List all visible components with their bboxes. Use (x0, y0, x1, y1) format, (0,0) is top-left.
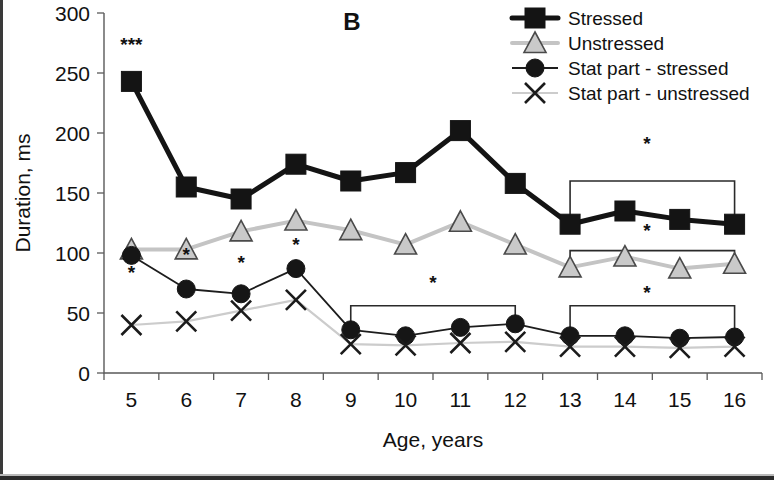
x-axis-title: Age, years (383, 428, 483, 451)
legend-label-x: Stat part - unstressed (568, 83, 750, 104)
marker-stressed-age-8 (286, 154, 306, 174)
marker-stat-part-unstressed-age-8 (286, 290, 306, 310)
sig-bracket-mid-statpart: * (429, 272, 437, 293)
marker-unstressed-age-12 (504, 234, 526, 254)
x-tick-label-5: 5 (126, 388, 138, 411)
marker-stressed-age-15 (670, 209, 690, 229)
marker-stat-part-stressed-age-12 (506, 315, 524, 333)
marker-stressed-age-11 (450, 121, 470, 141)
marker-stressed-age-7 (231, 189, 251, 209)
chart-legend: StressedUnstressedStat part - stressedSt… (512, 8, 750, 104)
y-tick-label-150: 150 (55, 182, 90, 205)
x-tick-label-12: 12 (504, 388, 527, 411)
y-axis-title: Duration, ms (11, 133, 34, 252)
legend-label-square: Stressed (568, 8, 643, 29)
x-tick-label-16: 16 (723, 388, 746, 411)
sig-age6-unstressed: * (183, 244, 191, 265)
x-tick-label-11: 11 (450, 388, 472, 411)
marker-stat-part-stressed-age-15 (671, 329, 689, 347)
marker-stat-part-stressed-age-8 (287, 260, 305, 278)
series-line-stat-part-unstressed (131, 300, 734, 348)
sig-bracket-right-stressed: * (643, 133, 651, 154)
x-tick-label-14: 14 (613, 388, 637, 411)
legend-marker-square-icon (525, 8, 545, 28)
legend-label-circle: Stat part - stressed (568, 58, 729, 79)
sig-age8-unstressed: * (292, 234, 300, 255)
marker-stat-part-stressed-age-7 (232, 285, 250, 303)
marker-stressed-age-5 (121, 71, 141, 91)
figure-panel-b: *********** 0501001502002503005678910111… (0, 0, 774, 480)
y-tick-label-200: 200 (55, 122, 90, 145)
chart-plot-area: *********** 0501001502002503005678910111… (0, 0, 774, 480)
sig-age5-stressed: *** (120, 34, 143, 55)
legend-item-unstressed: Unstressed (512, 32, 664, 54)
marker-stat-part-unstressed-age-7 (231, 301, 251, 321)
marker-unstressed-age-8 (285, 210, 307, 230)
marker-stressed-age-16 (725, 214, 745, 234)
x-tick-label-13: 13 (558, 388, 581, 411)
marker-stat-part-stressed-age-6 (177, 280, 195, 298)
x-tick-label-10: 10 (394, 388, 417, 411)
sig-bracket-right-statpart: * (643, 282, 651, 303)
marker-stat-part-stressed-age-11 (451, 318, 469, 336)
marker-stressed-age-6 (176, 177, 196, 197)
x-tick-label-7: 7 (235, 388, 247, 411)
sig-bracket-right-unstressed: * (643, 220, 651, 241)
marker-stressed-age-9 (341, 171, 361, 191)
marker-stressed-age-12 (505, 173, 525, 193)
chart-series-lines (131, 81, 734, 347)
legend-label-triangle: Unstressed (568, 33, 664, 54)
marker-stressed-age-14 (615, 201, 635, 221)
marker-unstressed-age-11 (449, 211, 471, 231)
marker-stat-part-stressed-age-16 (726, 328, 744, 346)
legend-item-stressed: Stressed (512, 8, 643, 29)
legend-item-stat-part-stressed: Stat part - stressed (512, 58, 729, 79)
panel-label: B (343, 8, 360, 35)
y-tick-label-250: 250 (55, 62, 90, 85)
marker-unstressed-age-14 (614, 246, 636, 266)
y-tick-label-50: 50 (67, 302, 90, 325)
x-tick-label-9: 9 (345, 388, 357, 411)
y-tick-label-0: 0 (78, 362, 90, 385)
bracket-statpart-13-16 (570, 306, 735, 330)
bracket-stressed-13-16 (570, 181, 735, 217)
x-tick-label-8: 8 (290, 388, 302, 411)
marker-stressed-age-10 (396, 163, 416, 183)
x-tick-label-15: 15 (668, 388, 691, 411)
sig-age7-unstressed: * (237, 252, 245, 273)
marker-stressed-age-13 (560, 214, 580, 234)
legend-marker-circle-icon (526, 59, 544, 77)
sig-age5-statpart: * (128, 262, 136, 283)
x-tick-label-6: 6 (180, 388, 192, 411)
y-tick-label-100: 100 (55, 242, 90, 265)
marker-stat-part-stressed-age-10 (397, 327, 415, 345)
legend-item-stat-part-unstressed: Stat part - unstressed (512, 83, 750, 104)
y-tick-label-300: 300 (55, 2, 90, 25)
